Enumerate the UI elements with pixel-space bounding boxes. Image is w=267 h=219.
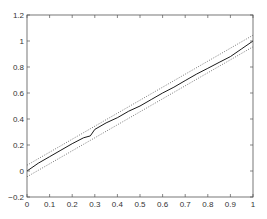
x-tick-label: 0.1	[44, 200, 56, 209]
x-tick-label: 0.6	[157, 200, 169, 209]
x-tick-label: 0.7	[180, 200, 192, 209]
series-upper-bound	[27, 35, 253, 165]
x-tick-label: 0.2	[67, 200, 79, 209]
y-tick-label: 0.2	[13, 141, 25, 150]
y-tick-label: 0	[20, 167, 25, 176]
series-empirical	[27, 41, 253, 171]
y-tick-label: 0.8	[13, 63, 25, 72]
y-tick-label: 0.4	[13, 115, 25, 124]
y-axis-ticks: −0.200.20.40.60.811.2	[8, 11, 253, 202]
y-tick-label: 0.6	[13, 89, 25, 98]
x-tick-label: 1	[251, 200, 256, 209]
y-tick-label: 1	[20, 37, 25, 46]
line-chart: 00.10.20.30.40.50.60.70.80.91 −0.200.20.…	[0, 0, 267, 219]
y-tick-label: −0.2	[8, 193, 24, 202]
x-tick-label: 0.5	[134, 200, 146, 209]
series-lower-bound	[27, 47, 253, 177]
x-tick-label: 0.9	[225, 200, 237, 209]
x-tick-label: 0.4	[112, 200, 124, 209]
plot-area	[27, 35, 253, 177]
y-tick-label: 1.2	[13, 11, 25, 20]
x-tick-label: 0	[25, 200, 30, 209]
x-tick-label: 0.3	[89, 200, 101, 209]
x-tick-label: 0.8	[202, 200, 214, 209]
